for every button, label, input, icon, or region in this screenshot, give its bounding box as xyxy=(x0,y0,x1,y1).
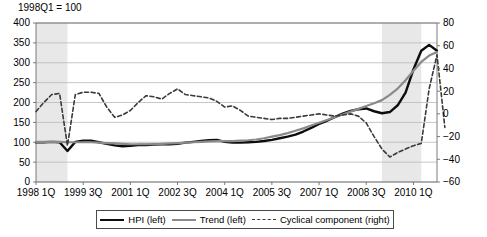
y-right-tick-label: −60 xyxy=(443,176,460,187)
legend-label-cyclical: Cyclical component (right) xyxy=(280,214,390,225)
y-right-tick-label: 20 xyxy=(443,86,455,97)
legend-item-cyclical: Cyclical component (right) xyxy=(252,214,390,225)
y-right-tick-label: −40 xyxy=(443,154,460,165)
y-right-tick-label: 0 xyxy=(443,108,449,119)
y-left-tick-label: 250 xyxy=(13,77,30,88)
legend-swatch-cyclical-icon xyxy=(252,219,276,220)
y-right-tick-label: 40 xyxy=(443,63,455,74)
legend-label-hpi: HPI (left) xyxy=(128,214,165,225)
y-left-tick-label: 100 xyxy=(13,137,30,148)
x-tick-label: 1998 1Q xyxy=(17,187,56,198)
y-right-tick-label: 60 xyxy=(443,40,455,51)
y-axis-right-ticks: −60−40−20020406080 xyxy=(437,17,460,187)
x-tick-label: 2001 1Q xyxy=(111,187,150,198)
legend-item-hpi: HPI (left) xyxy=(100,214,165,225)
chart-plot-svg: 050100150200250300350400 −60−40−20020406… xyxy=(0,0,487,237)
x-tick-label: 2010 1Q xyxy=(394,187,433,198)
legend-swatch-trend-icon xyxy=(172,219,196,221)
series-line-hpi-left xyxy=(36,45,437,151)
chart-units-note: 1998Q1 = 100 xyxy=(18,2,82,13)
chart-figure: 1998Q1 = 100 050100150200250300350400 −6… xyxy=(0,0,487,237)
x-tick-label: 2007 1Q xyxy=(300,187,339,198)
y-right-tick-label: 80 xyxy=(443,17,455,28)
x-tick-label: 2008 3Q xyxy=(347,187,386,198)
y-axis-left-ticks: 050100150200250300350400 xyxy=(13,17,36,187)
y-left-tick-label: 200 xyxy=(13,97,30,108)
x-tick-label: 2002 3Q xyxy=(158,187,197,198)
legend-swatch-hpi-icon xyxy=(100,219,124,221)
legend-item-trend: Trend (left) xyxy=(172,214,246,225)
x-axis-ticks: 1998 1Q1999 3Q2001 1Q2002 3Q2004 1Q2005 … xyxy=(17,182,433,198)
x-tick-label: 1999 3Q xyxy=(64,187,103,198)
chart-legend: HPI (left) Trend (left) Cyclical compone… xyxy=(96,210,394,229)
series-line-trend-left xyxy=(36,52,437,144)
y-right-tick-label: −20 xyxy=(443,131,460,142)
x-tick-label: 2005 3Q xyxy=(253,187,292,198)
y-left-tick-label: 50 xyxy=(19,157,31,168)
y-left-tick-label: 350 xyxy=(13,37,30,48)
y-left-tick-label: 0 xyxy=(24,176,30,187)
legend-label-trend: Trend (left) xyxy=(200,214,246,225)
y-left-tick-label: 400 xyxy=(13,17,30,28)
x-tick-label: 2004 1Q xyxy=(206,187,245,198)
y-left-tick-label: 150 xyxy=(13,117,30,128)
y-left-tick-label: 300 xyxy=(13,57,30,68)
